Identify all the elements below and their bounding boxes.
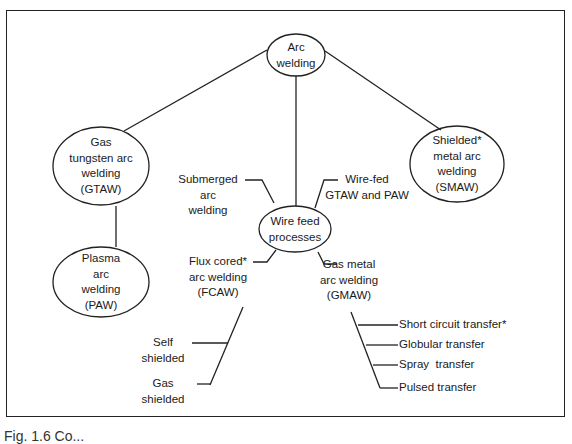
- node-text: (PAW): [56, 298, 146, 314]
- node-text: welding: [412, 164, 502, 180]
- label-fcaw: Flux cored* arc welding (FCAW): [178, 254, 258, 301]
- node-wire-feed-processes: Wire feed processes: [255, 214, 335, 245]
- label-text: Submerged: [168, 172, 248, 188]
- label-text: Wire-fed: [322, 172, 412, 188]
- node-text: (SMAW): [412, 180, 502, 196]
- label-text: Flux cored*: [178, 254, 258, 270]
- node-text: arc: [56, 267, 146, 283]
- node-text: (GTAW): [56, 182, 146, 198]
- label-gmaw: Gas metal arc welding (GMAW): [304, 257, 394, 304]
- label-gas-shielded: Gas shielded: [137, 376, 189, 407]
- label-text: welding: [168, 203, 248, 219]
- label-pulsed-transfer: Pulsed transfer: [399, 380, 476, 396]
- node-text: Wire feed: [255, 214, 335, 230]
- label-text: Self: [137, 335, 189, 351]
- node-text: Gas: [56, 135, 146, 151]
- label-wire-fed-gtaw-paw: Wire-fed GTAW and PAW: [322, 172, 412, 203]
- node-text: Shielded*: [412, 133, 502, 149]
- node-text: welding: [56, 166, 146, 182]
- node-text: processes: [255, 230, 335, 246]
- figure-caption: Fig. 1.6 Co...: [4, 428, 84, 444]
- node-text: welding: [56, 282, 146, 298]
- label-text: shielded: [137, 351, 189, 367]
- label-text: arc welding: [178, 270, 258, 286]
- node-text: Arc: [266, 40, 326, 56]
- node-text: tungsten arc: [56, 151, 146, 167]
- label-text: arc: [168, 188, 248, 204]
- label-text: Gas: [137, 376, 189, 392]
- label-submerged-arc-welding: Submerged arc welding: [168, 172, 248, 219]
- label-text: (FCAW): [178, 285, 258, 301]
- label-text: GTAW and PAW: [322, 188, 412, 204]
- label-spray-transfer: Spray transfer: [399, 357, 474, 373]
- label-text: (GMAW): [304, 288, 394, 304]
- node-paw: Plasma arc welding (PAW): [56, 251, 146, 313]
- label-text: arc welding: [304, 273, 394, 289]
- label-text: Gas metal: [304, 257, 394, 273]
- node-arc-welding: Arc welding: [266, 40, 326, 71]
- label-text: shielded: [137, 392, 189, 408]
- label-self-shielded: Self shielded: [137, 335, 189, 366]
- node-text: welding: [266, 56, 326, 72]
- label-short-circuit-transfer: Short circuit transfer*: [399, 317, 506, 333]
- node-text: Plasma: [56, 251, 146, 267]
- node-gtaw: Gas tungsten arc welding (GTAW): [56, 135, 146, 197]
- node-smaw: Shielded* metal arc welding (SMAW): [412, 133, 502, 195]
- label-globular-transfer: Globular transfer: [399, 337, 485, 353]
- node-text: metal arc: [412, 149, 502, 165]
